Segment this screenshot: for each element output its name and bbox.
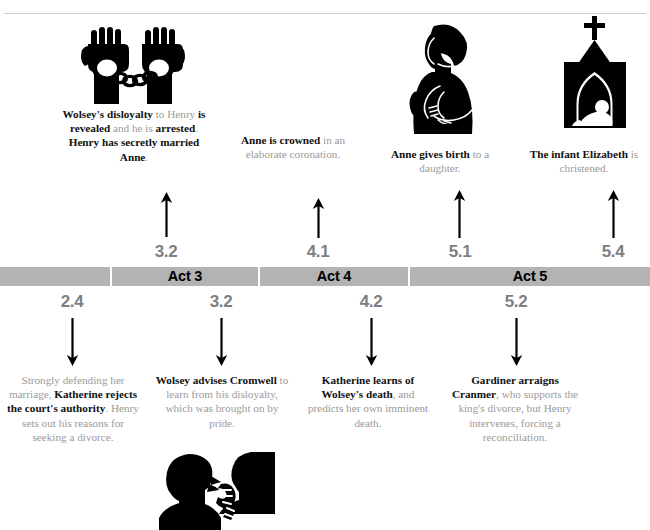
church-christening-icon	[556, 14, 634, 134]
event-caption-above-1: Anne is crowned in an elaborate coronati…	[229, 133, 357, 161]
act-segment-0	[0, 267, 110, 286]
mother-and-baby-icon	[404, 20, 488, 134]
act-label-5: Act 5	[410, 267, 650, 286]
event-caption-below-3: Gardiner arraigns Cranmer, who supports …	[450, 373, 580, 444]
handcuffed-fists-icon	[78, 18, 188, 106]
act-segment-3: Act 5	[410, 267, 650, 286]
event-caption-below-0: Strongly defending her marriage, Katheri…	[5, 373, 141, 444]
scene-number-below-0: 2.4	[49, 292, 95, 312]
arrow-down-icon-1	[215, 318, 228, 366]
act-segment-1: Act 3	[112, 267, 258, 286]
arrow-up-icon-0	[160, 192, 173, 237]
scene-number-above-0: 3.2	[143, 242, 189, 262]
arrow-up-icon-3	[607, 190, 620, 238]
scene-number-above-3: 5.4	[590, 242, 636, 262]
event-caption-above-0: Wolsey's disloyalty to Henry is revealed…	[62, 107, 206, 164]
act-timeline-band: Act 3 Act 4 Act 5	[0, 267, 650, 286]
event-caption-below-1: Wolsey advises Cromwell to learn from hi…	[152, 373, 292, 430]
header-divider	[4, 13, 646, 14]
act-segment-2: Act 4	[260, 267, 408, 286]
two-figures-talking-icon	[155, 448, 281, 530]
scene-number-below-1: 3.2	[198, 292, 244, 312]
act-label-4: Act 4	[260, 267, 408, 286]
arrow-down-icon-3	[510, 318, 523, 366]
arrow-down-icon-2	[365, 318, 378, 366]
scene-number-below-3: 5.2	[493, 292, 539, 312]
arrow-up-icon-1	[312, 198, 325, 238]
arrow-up-icon-2	[453, 190, 466, 238]
arrow-down-icon-0	[66, 318, 79, 366]
scene-number-above-2: 5.1	[437, 242, 483, 262]
scene-number-above-1: 4.1	[295, 242, 341, 262]
event-caption-above-2: Anne gives birth to a daughter.	[374, 147, 506, 175]
event-caption-above-3: The infant Elizabeth is christened.	[513, 147, 650, 175]
scene-number-below-2: 4.2	[348, 292, 394, 312]
timeline-infographic: Wolsey's disloyalty to Henry is revealed…	[0, 0, 650, 530]
event-caption-below-2: Katherine learns of Wolsey's death, and …	[304, 373, 432, 430]
act-label-3: Act 3	[112, 267, 258, 286]
